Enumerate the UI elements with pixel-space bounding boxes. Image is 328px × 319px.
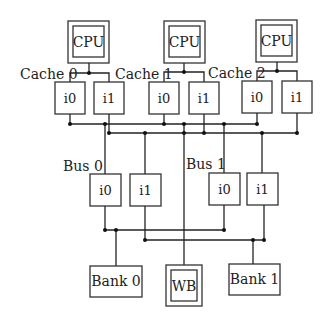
svg-text:i1: i1 bbox=[256, 182, 268, 197]
svg-text:i1: i1 bbox=[291, 90, 303, 105]
svg-text:i0: i0 bbox=[158, 91, 170, 106]
bus-1-label: Bus 1 bbox=[186, 156, 226, 172]
cache-0-label: Cache 0 bbox=[20, 66, 78, 82]
cpu-1: CPU bbox=[164, 21, 205, 63]
cache-1-label: Cache 1 bbox=[115, 66, 173, 82]
svg-text:i0: i0 bbox=[99, 183, 111, 198]
cache-2-label: Cache 2 bbox=[208, 65, 266, 81]
write-buffer: WB bbox=[166, 265, 202, 306]
svg-text:i1: i1 bbox=[139, 183, 151, 198]
bank-0: Bank 0 bbox=[90, 266, 142, 297]
svg-text:Bank 1: Bank 1 bbox=[230, 271, 280, 287]
svg-text:WB: WB bbox=[172, 278, 197, 294]
cpu-2: CPU bbox=[256, 20, 297, 62]
bank-1: Bank 1 bbox=[229, 264, 280, 295]
svg-text:i1: i1 bbox=[103, 91, 115, 106]
cpu-0-label: CPU bbox=[73, 34, 105, 50]
svg-text:i0: i0 bbox=[218, 182, 230, 197]
cpu-2-label: CPU bbox=[261, 33, 293, 49]
cache-2-ports: i0 i1 bbox=[242, 81, 312, 113]
bus-0-ports: i0 i1 bbox=[90, 174, 161, 206]
cpu-0: CPU bbox=[68, 21, 109, 63]
cache-1-ports: i0 i1 bbox=[149, 82, 219, 114]
cpu-1-label: CPU bbox=[169, 34, 201, 50]
svg-text:i0: i0 bbox=[64, 91, 76, 106]
cache-0-ports: i0 i1 bbox=[55, 82, 124, 114]
svg-text:Bank 0: Bank 0 bbox=[91, 273, 141, 289]
interconnect-diagram: CPU CPU CPU Cache 0 Cache 1 Cache 2 i0 i… bbox=[0, 0, 328, 319]
svg-text:i1: i1 bbox=[198, 91, 210, 106]
bus-1-ports: i0 i1 bbox=[209, 173, 278, 205]
svg-text:i0: i0 bbox=[251, 90, 263, 105]
bus-0-label: Bus 0 bbox=[63, 158, 103, 174]
